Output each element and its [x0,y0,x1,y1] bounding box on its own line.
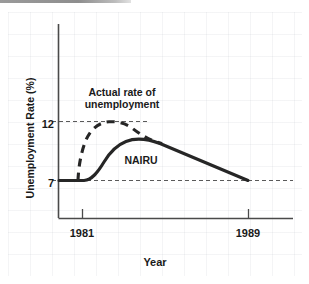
y-axis-tick-label-7: 7 [38,177,54,189]
unemployment-nairu-chart: 12 7 1981 1989 Unemployment Rate (%) Yea… [0,4,309,284]
actual-rate-annotation-line2: unemployment [72,98,172,110]
y-axis-title: Unemployment Rate (%) [24,63,36,213]
actual-rate-annotation: Actual rate of unemployment [72,86,172,110]
x-axis-tick-label-1989: 1989 [226,227,270,239]
actual-rate-series-line [78,122,162,181]
nairu-annotation: NAIRU [113,154,169,166]
top-divider-rule [0,0,131,3]
chart-plot-area [0,4,309,284]
y-axis-tick-label-12: 12 [38,118,54,130]
x-axis-title: Year [100,256,210,268]
x-axis-tick-label-1981: 1981 [60,227,104,239]
actual-rate-annotation-line1: Actual rate of [72,86,172,98]
